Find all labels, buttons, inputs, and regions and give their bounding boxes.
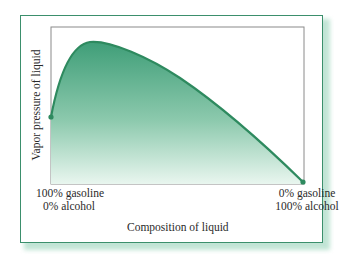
start-point-marker [48, 114, 53, 119]
x-tick-left-line2: 0% alcohol [36, 200, 102, 213]
x-tick-left-line1: 100% gasoline [36, 187, 102, 200]
area-fill [51, 42, 303, 184]
x-tick-right-line1: 0% gasoline [272, 187, 342, 200]
y-axis-label: Vapor pressure of liquid [30, 50, 42, 161]
end-point-marker [300, 179, 305, 184]
x-tick-right: 0% gasoline 100% alcohol [272, 187, 342, 213]
x-tick-left: 100% gasoline 0% alcohol [36, 187, 102, 213]
x-tick-right-line2: 100% alcohol [272, 200, 342, 213]
x-axis-label: Composition of liquid [127, 221, 229, 233]
